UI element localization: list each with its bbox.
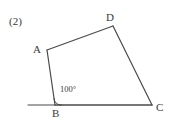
edge-D-C — [113, 26, 152, 105]
figure-canvas — [0, 0, 172, 123]
vertex-label-D: D — [106, 12, 114, 23]
angle-measure-label-B: 100° — [60, 85, 76, 94]
vertex-label-B: B — [52, 108, 59, 119]
edge-A-D — [47, 26, 113, 50]
geometry-figure: (2) A B C D 100° — [0, 0, 172, 123]
edge-B-A — [47, 50, 55, 105]
vertex-label-C: C — [156, 102, 163, 113]
item-number-label: (2) — [9, 16, 22, 27]
vertex-label-A: A — [33, 44, 41, 55]
